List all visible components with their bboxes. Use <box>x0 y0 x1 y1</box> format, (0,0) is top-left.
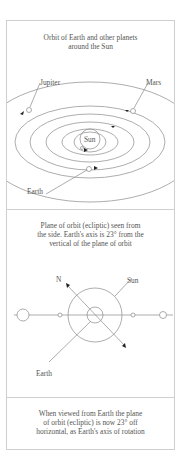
panel-3-caption: When viewed from Earth the plane of orbi… <box>8 409 173 437</box>
earth-label-2: Earth <box>36 369 52 378</box>
ecliptic-side-diagram: N Sun Earth <box>0 265 180 395</box>
direction-arrow-icon <box>94 166 98 170</box>
earth-label: Earth <box>27 187 43 196</box>
planet-icon <box>160 312 167 319</box>
outer-planet-icon <box>17 309 29 321</box>
jupiter-icon <box>27 108 32 113</box>
earth-leader-line <box>49 321 91 362</box>
planet-icon <box>131 313 135 317</box>
divider <box>6 397 175 398</box>
mercury-icon <box>81 147 84 150</box>
direction-arrow-icon <box>111 126 115 128</box>
north-label: N <box>56 275 62 284</box>
mars-icon <box>131 109 136 114</box>
sun-label: Sun <box>84 135 96 144</box>
direction-arrow-icon <box>20 111 24 115</box>
earth-icon <box>87 167 92 172</box>
panel-1-caption: Orbit of Earth and other planets around … <box>8 33 173 51</box>
orbit-diagram: Jupiter Mars Sun Earth <box>0 70 180 210</box>
jupiter-label: Jupiter <box>40 78 61 87</box>
divider <box>6 209 175 210</box>
planet-icon <box>58 313 62 317</box>
mars-label: Mars <box>146 78 161 87</box>
panel-2-caption: Plane of orbit (ecliptic) seen from the … <box>8 221 173 249</box>
sun-label-2: Sun <box>127 276 139 285</box>
